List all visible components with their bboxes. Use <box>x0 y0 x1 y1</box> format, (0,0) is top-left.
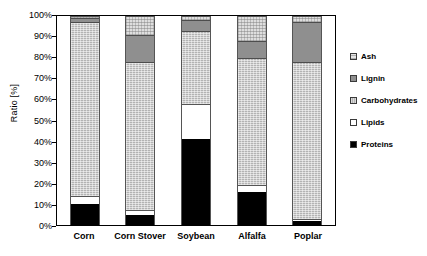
y-axis-tick-label: 0% <box>18 221 52 231</box>
bar-slot <box>57 16 113 225</box>
y-axis-tick-label: 10% <box>18 200 52 210</box>
bar-slot <box>224 16 280 225</box>
y-axis-tick-label: 80% <box>18 52 52 62</box>
bar-segment-carbohydrates <box>71 22 99 195</box>
y-axis-tick-label: 70% <box>18 73 52 83</box>
legend-item-lipids[interactable]: Lipids <box>350 118 424 127</box>
bar-slot <box>279 16 335 225</box>
bar-segment-lipids <box>71 196 99 204</box>
x-axis-tick-label: Corn Stover <box>114 231 166 241</box>
x-axis-tick-label: Corn <box>74 231 95 241</box>
bar-segment-proteins <box>182 139 210 225</box>
y-axis-tick-mark <box>52 15 56 16</box>
legend-item-proteins[interactable]: Proteins <box>350 140 424 149</box>
stacked-bar[interactable] <box>237 16 267 225</box>
y-axis-tick-label: 60% <box>18 94 52 104</box>
y-axis-tick-label: 50% <box>18 116 52 126</box>
bar-segment-carbohydrates <box>238 58 266 185</box>
y-axis-tick-label: 90% <box>18 31 52 41</box>
bar-segment-proteins <box>71 204 99 225</box>
stacked-bar[interactable] <box>181 16 211 225</box>
legend-item-label: Carbohydrates <box>361 96 417 105</box>
legend-item-label: Ash <box>361 52 376 61</box>
y-axis-tick-label: 100% <box>18 10 52 20</box>
bar-segment-lignin <box>126 35 154 62</box>
y-axis-tick-mark <box>52 36 56 37</box>
bar-segment-carbohydrates <box>126 62 154 210</box>
legend-swatch-icon <box>350 75 357 82</box>
y-axis-tick-mark <box>52 57 56 58</box>
bar-segment-lignin <box>238 41 266 58</box>
bar-segment-lignin <box>182 20 210 30</box>
x-axis-tick-label: Alfalfa <box>238 231 266 241</box>
chart-legend: AshLigninCarbohydratesLipidsProteins <box>350 52 424 162</box>
y-axis-tick-mark <box>52 163 56 164</box>
y-axis-tick-label: 20% <box>18 179 52 189</box>
bar-segment-ash <box>126 16 154 35</box>
y-axis-tick-mark <box>52 142 56 143</box>
bar-segment-lipids <box>182 104 210 140</box>
legend-item-label: Proteins <box>361 140 393 149</box>
y-axis-tick-mark <box>52 121 56 122</box>
bars-container <box>57 16 335 225</box>
stacked-bar[interactable] <box>125 16 155 225</box>
stacked-bar[interactable] <box>70 16 100 225</box>
x-axis-tick-label: Poplar <box>294 231 322 241</box>
plot-area <box>56 15 336 226</box>
y-axis-tick-mark <box>52 205 56 206</box>
bar-segment-ash <box>238 16 266 41</box>
legend-item-label: Lipids <box>361 118 385 127</box>
y-axis-tick-label: 40% <box>18 137 52 147</box>
legend-item-carbohydrates[interactable]: Carbohydrates <box>350 96 424 105</box>
bar-slot <box>168 16 224 225</box>
legend-item-lignin[interactable]: Lignin <box>350 74 424 83</box>
legend-swatch-icon <box>350 119 357 126</box>
stacked-bar-chart-figure: Ratio [%] AshLigninCarbohydratesLipidsPr… <box>0 0 427 256</box>
bar-segment-carbohydrates <box>182 31 210 104</box>
y-axis-tick-mark <box>52 226 56 227</box>
bar-segment-lignin <box>293 22 321 62</box>
bar-segment-proteins <box>293 221 321 225</box>
bar-slot <box>113 16 169 225</box>
stacked-bar[interactable] <box>292 16 322 225</box>
legend-item-ash[interactable]: Ash <box>350 52 424 61</box>
x-axis-tick-label: Soybean <box>177 231 215 241</box>
legend-swatch-icon <box>350 141 357 148</box>
y-axis-tick-label: 30% <box>18 158 52 168</box>
legend-swatch-icon <box>350 97 357 104</box>
bar-segment-proteins <box>126 215 154 225</box>
y-axis-tick-mark <box>52 184 56 185</box>
legend-item-label: Lignin <box>361 74 385 83</box>
bar-segment-carbohydrates <box>293 62 321 219</box>
y-axis-tick-mark <box>52 78 56 79</box>
bar-segment-proteins <box>238 192 266 225</box>
legend-swatch-icon <box>350 53 357 60</box>
y-axis-tick-mark <box>52 99 56 100</box>
